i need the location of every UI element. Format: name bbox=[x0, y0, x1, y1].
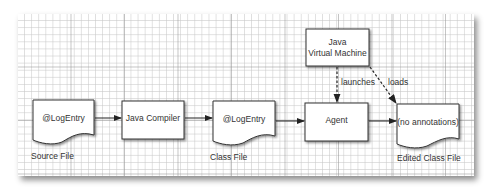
edited-class-file-text: (no annotations) bbox=[397, 117, 459, 127]
java-compiler-text: Java Compiler bbox=[122, 113, 184, 123]
source-file-text: @LogEntry bbox=[33, 113, 94, 123]
launches-label: launches bbox=[341, 77, 375, 87]
class-file-caption: Class File bbox=[210, 152, 247, 162]
class-file-text: @LogEntry bbox=[213, 114, 275, 124]
jvm-text-line2: Virtual Machine bbox=[306, 48, 369, 58]
agent-text: Agent bbox=[305, 115, 368, 125]
jvm-text-line1: Java bbox=[306, 37, 369, 47]
loads-label: loads bbox=[388, 77, 408, 87]
source-file-caption: Source File bbox=[31, 151, 74, 161]
edited-class-file-caption: Edited Class File bbox=[397, 153, 461, 163]
